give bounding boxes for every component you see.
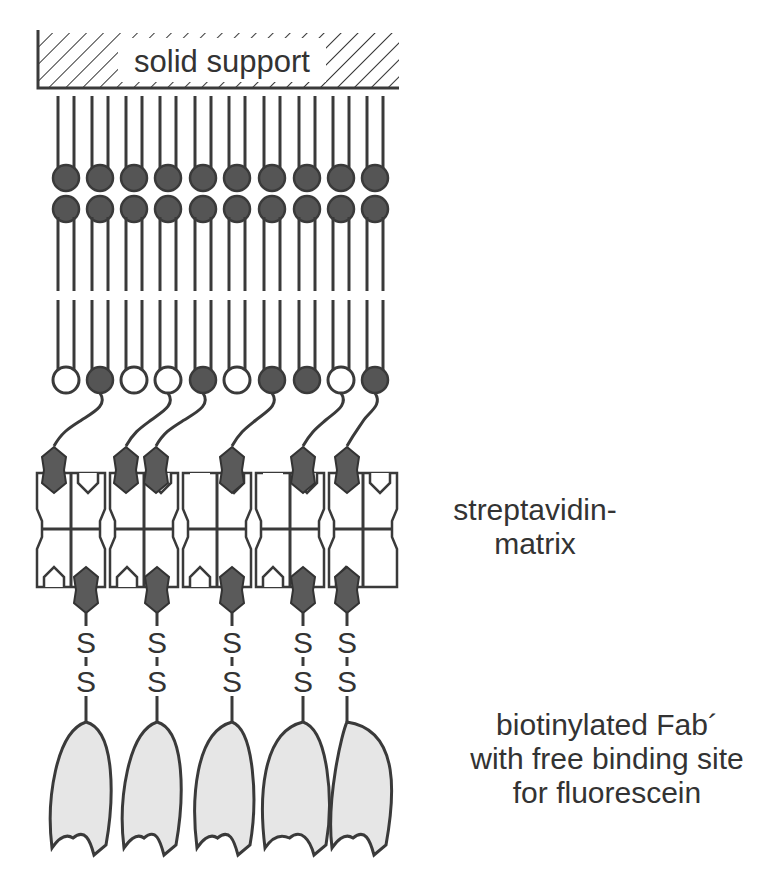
lipid-head-lower-open <box>53 367 79 393</box>
lipid-head-lower-open <box>121 367 147 393</box>
sulfur-label: S <box>293 626 313 659</box>
sulfur-label: S <box>222 665 242 698</box>
lipid-head-upper <box>362 165 388 191</box>
lipid-head-lower-open <box>328 367 354 393</box>
biotin-icon <box>220 447 244 493</box>
streptavidin-tetramer <box>110 473 178 587</box>
biotin-icon <box>291 567 315 613</box>
solid-support: solid support <box>38 30 399 88</box>
lipid-head-upper <box>155 165 181 191</box>
lipid-head-lower-filled <box>362 367 388 393</box>
streptavidin-label-line2: matrix <box>430 527 640 561</box>
fab-label-line1: biotinylated Fab´ <box>432 708 782 742</box>
lipid-bilayer <box>53 96 388 393</box>
fab-label: biotinylated Fab´ with free binding site… <box>432 708 782 810</box>
biotin-icon <box>144 447 168 493</box>
fab-fragment <box>263 722 330 855</box>
disulfide-linked-fab: SS <box>331 613 392 855</box>
lipid-head-lower-filled <box>190 367 216 393</box>
sulfur-label: S <box>147 665 167 698</box>
disulfide-linked-fab: SS <box>263 613 330 855</box>
lipid-head-lower-filled <box>294 367 320 393</box>
biotin-icon <box>114 447 138 493</box>
fab-fragment <box>331 722 392 855</box>
fab-fragment <box>195 722 254 855</box>
lipid-head-upper <box>259 165 285 191</box>
fab-label-line3: for fluorescein <box>432 776 782 810</box>
sulfur-label: S <box>337 665 357 698</box>
lipid-head-upper <box>87 165 113 191</box>
biotin-icon <box>42 447 66 493</box>
fab-fragment <box>50 722 111 855</box>
sulfur-label: S <box>337 626 357 659</box>
biotin-icon <box>291 447 315 493</box>
streptavidin-tetramer <box>329 473 397 587</box>
solid-support-label: solid support <box>134 44 310 79</box>
lipid-head-lower-filled <box>259 367 285 393</box>
streptavidin-tetramer <box>183 473 251 587</box>
disulfide-linked-fab: SS <box>122 613 181 855</box>
streptavidin-tetramer <box>256 473 324 587</box>
streptavidin-tetramer <box>37 473 105 587</box>
sulfur-label: S <box>147 626 167 659</box>
lipid-head-upper <box>224 165 250 191</box>
biotin-icon <box>74 567 98 613</box>
disulfide-linked-fab: SS <box>50 613 111 855</box>
fab-fragment <box>122 722 181 855</box>
streptavidin-matrix-label: streptavidin- matrix <box>430 493 640 561</box>
sulfur-label: S <box>293 665 313 698</box>
fab-label-line2: with free binding site <box>432 742 782 776</box>
streptavidin-label-line1: streptavidin- <box>430 493 640 527</box>
lipid-head-upper <box>294 165 320 191</box>
lipid-head-lower-filled <box>87 367 113 393</box>
biotin-linkers <box>54 393 377 446</box>
lipid-head-upper <box>328 165 354 191</box>
biotin-icon <box>335 567 359 613</box>
lipid-head-upper <box>190 165 216 191</box>
fab-fragments: SSSSSSSSSS <box>50 613 391 855</box>
lipid-head-upper <box>53 165 79 191</box>
lipid-head-lower-open <box>224 367 250 393</box>
disulfide-linked-fab: SS <box>195 613 254 855</box>
sulfur-label: S <box>222 626 242 659</box>
lipid-head-upper <box>121 165 147 191</box>
lipid-head-lower-open <box>155 367 181 393</box>
biotin-icon <box>145 567 169 613</box>
sulfur-label: S <box>76 665 96 698</box>
sulfur-label: S <box>76 626 96 659</box>
biotin-icon <box>220 567 244 613</box>
biotin-icon <box>335 447 359 493</box>
